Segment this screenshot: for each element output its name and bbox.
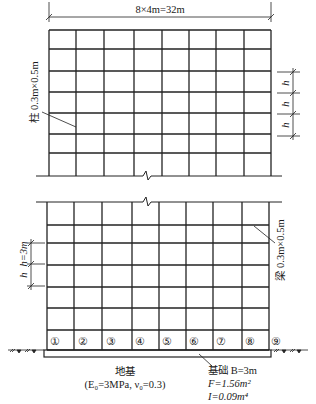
column-number: ⑤ <box>162 336 172 347</box>
left-dim-label-1: h=3m <box>18 241 29 267</box>
foundation-area: F=1.56m² <box>207 378 251 389</box>
column-label: 柱 0.3m×0.5m <box>28 61 40 122</box>
upper-frame-grid <box>49 30 271 176</box>
column-leader-line <box>42 112 76 127</box>
foundation-label: 基础 B=3m <box>208 364 257 376</box>
column-number: ⑦ <box>216 336 226 347</box>
subgrade-params: (E₀=3MPa, ν₀=0.3) <box>85 379 166 391</box>
frame-diagram: 8×4m=32m h h h h=3m h 柱 0.3m×0.5m 梁 0.3m… <box>0 0 316 404</box>
right-dim-label-1: h <box>280 80 291 85</box>
foundation-inertia: I=0.09m⁴ <box>207 391 249 402</box>
column-number: ⑨ <box>271 336 281 347</box>
column-number: ① <box>50 336 60 347</box>
ground-symbol-right <box>271 349 308 353</box>
beam-leader-line <box>254 226 275 243</box>
right-dim-label-3: h <box>280 122 291 127</box>
column-number: ③ <box>106 336 116 347</box>
column-numbers: ① ② ③ ④ ⑤ ⑥ ⑦ ⑧ ⑨ <box>50 336 281 347</box>
beam-label: 梁 0.3m×0.5m <box>274 219 286 280</box>
left-dim-label-2: h <box>18 272 29 277</box>
column-number: ② <box>78 336 88 347</box>
break-lines <box>36 171 282 206</box>
column-number: ④ <box>135 336 145 347</box>
lower-frame-grid <box>47 202 269 350</box>
top-dimension-label: 8×4m=32m <box>135 4 184 15</box>
foundation-beam <box>44 350 271 357</box>
right-dim-label-2: h <box>280 101 291 106</box>
subgrade-label: 地基 <box>115 365 136 377</box>
left-story-dimension <box>27 239 45 290</box>
column-number: ⑧ <box>245 336 255 347</box>
column-number: ⑥ <box>189 336 199 347</box>
ground-symbol-left <box>8 349 44 353</box>
